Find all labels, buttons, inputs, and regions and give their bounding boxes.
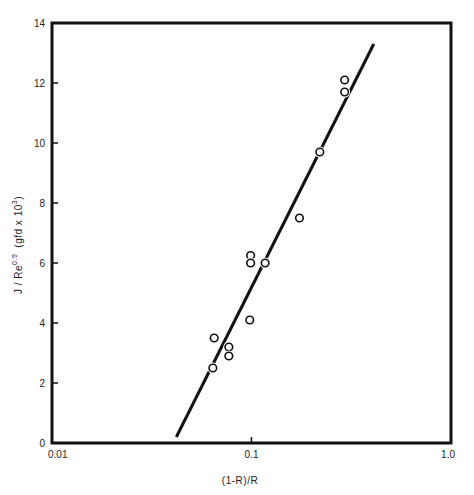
x-tick-label: 0.01 xyxy=(48,449,68,460)
y-tick-label: 12 xyxy=(34,78,46,89)
y-tick-label: 10 xyxy=(34,138,46,149)
plot-frame xyxy=(52,23,451,443)
x-axis-ticks: 0.010.11.0 xyxy=(48,437,455,460)
y-tick-label: 4 xyxy=(39,318,45,329)
y-axis-ticks: 02468101214 xyxy=(34,18,58,449)
x-axis-label: (1-R)/R xyxy=(222,475,258,486)
y-tick-label: 2 xyxy=(39,378,45,389)
x-tick-label: 0.1 xyxy=(245,449,259,460)
svg-text:J / Re0.9(gfd x 103): J / Re0.9(gfd x 103) xyxy=(11,196,24,294)
data-points xyxy=(207,75,350,374)
y-axis-label: J / Re0.9(gfd x 103) xyxy=(11,196,24,294)
y-tick-label: 8 xyxy=(39,198,45,209)
fit-line xyxy=(176,44,373,437)
y-tick-label: 0 xyxy=(39,438,45,449)
y-tick-label: 14 xyxy=(34,18,46,29)
chart: 02468101214 0.010.11.0 (1-R)/R J / Re0.9… xyxy=(0,0,474,495)
y-tick-label: 6 xyxy=(39,258,45,269)
x-tick-label: 1.0 xyxy=(441,449,455,460)
